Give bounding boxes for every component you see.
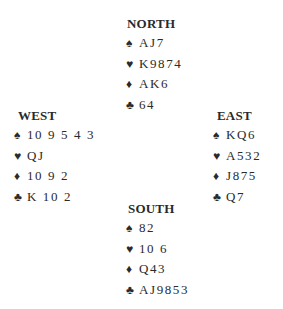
spades-row: ♠KQ6 [213,125,261,146]
spade-icon: ♠ [213,126,226,146]
spades-row: ♠AJ7 [126,33,182,54]
hearts-cards: K9874 [139,56,182,71]
hand-title-north: NORTH [127,16,182,32]
clubs-row: ♣AJ9853 [126,280,189,301]
hand-east: EAST ♠KQ6 ♥A532 ♦J875 ♣Q7 [213,108,261,207]
spades-cards: 10 9 5 4 3 [27,127,95,142]
diamond-icon: ♦ [213,167,226,187]
hearts-cards: A532 [226,148,261,163]
hand-title-south: SOUTH [128,201,189,217]
diamonds-cards: 10 9 2 [27,168,69,183]
diamonds-row: ♦10 9 2 [14,166,95,187]
hand-title-east: EAST [217,108,261,124]
hand-title-west: WEST [18,108,95,124]
hearts-row: ♥K9874 [126,54,182,75]
heart-icon: ♥ [213,147,226,167]
clubs-row: ♣K 10 2 [14,187,95,208]
hearts-cards: QJ [27,148,45,163]
hand-west: WEST ♠10 9 5 4 3 ♥QJ ♦10 9 2 ♣K 10 2 [14,108,95,207]
heart-icon: ♥ [126,240,139,260]
hearts-row: ♥QJ [14,146,95,167]
diamonds-row: ♦Q43 [126,259,189,280]
spades-cards: 82 [139,220,155,235]
hand-north: NORTH ♠AJ7 ♥K9874 ♦AK6 ♣64 [126,16,182,115]
diamond-icon: ♦ [14,167,27,187]
clubs-row: ♣64 [126,95,182,116]
diamonds-cards: J875 [226,168,257,183]
diamonds-cards: Q43 [139,261,166,276]
hand-south: SOUTH ♠82 ♥10 6 ♦Q43 ♣AJ9853 [126,201,189,300]
heart-icon: ♥ [14,147,27,167]
diamonds-cards: AK6 [139,76,169,91]
diamond-icon: ♦ [126,75,139,95]
clubs-cards: AJ9853 [139,282,189,297]
club-icon: ♣ [213,188,226,208]
diamonds-row: ♦J875 [213,166,261,187]
spades-row: ♠10 9 5 4 3 [14,125,95,146]
diamonds-row: ♦AK6 [126,74,182,95]
spade-icon: ♠ [126,219,139,239]
hearts-cards: 10 6 [139,241,168,256]
club-icon: ♣ [14,188,27,208]
clubs-cards: K 10 2 [27,189,72,204]
clubs-cards: 64 [139,97,155,112]
hearts-row: ♥10 6 [126,239,189,260]
spade-icon: ♠ [126,34,139,54]
spades-cards: AJ7 [139,35,165,50]
clubs-cards: Q7 [226,189,245,204]
spade-icon: ♠ [14,126,27,146]
club-icon: ♣ [126,281,139,301]
clubs-row: ♣Q7 [213,187,261,208]
spades-row: ♠82 [126,218,189,239]
heart-icon: ♥ [126,55,139,75]
hearts-row: ♥A532 [213,146,261,167]
club-icon: ♣ [126,96,139,116]
diamond-icon: ♦ [126,260,139,280]
spades-cards: KQ6 [226,127,256,142]
